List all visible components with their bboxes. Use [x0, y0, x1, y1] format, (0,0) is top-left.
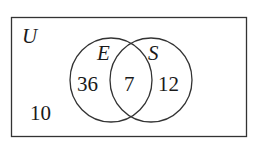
set-e-label: E: [97, 43, 110, 64]
outside-count: 10: [30, 103, 51, 124]
set-e-only-count: 36: [77, 74, 98, 95]
set-s-label: S: [148, 43, 159, 64]
universe-label: U: [22, 26, 37, 47]
intersection-count: 7: [124, 74, 135, 95]
set-s-only-count: 12: [158, 74, 179, 95]
